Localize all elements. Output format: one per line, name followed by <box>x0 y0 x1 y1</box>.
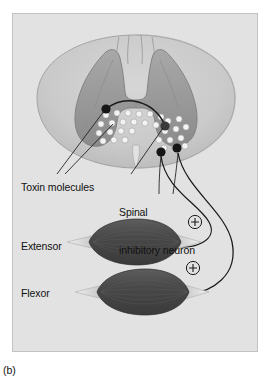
figure-root: Toxin molecules Spinal inhibitory neuron… <box>0 0 268 383</box>
label-spinal-inhibitory-neuron: Spinal inhibitory neuron <box>119 181 195 281</box>
label-spinal-line-2: inhibitory neuron <box>119 244 195 257</box>
label-extensor: Extensor <box>21 240 62 253</box>
motor-neuron-soma-flexor <box>172 143 181 152</box>
extensor-tendon-left <box>67 236 91 248</box>
illustration-panel: Toxin molecules Spinal inhibitory neuron… <box>12 13 258 352</box>
motor-neuron-soma-extensor <box>156 147 165 156</box>
label-flexor: Flexor <box>21 287 50 300</box>
flexor-tendon-left <box>75 286 99 298</box>
figure-caption: (b) <box>3 364 16 377</box>
label-toxin-molecules: Toxin molecules <box>21 181 94 194</box>
label-spinal-line-1: Spinal <box>119 206 195 219</box>
